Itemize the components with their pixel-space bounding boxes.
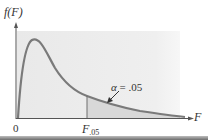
chart-canvas [0,0,208,140]
y-axis-arrow-icon [14,22,18,28]
origin-tick-label: 0 [13,123,19,134]
x-axis-label: F [194,111,201,123]
bottom-border-bar [0,136,208,140]
critical-value-label: F.05 [82,123,99,137]
f-distribution-figure: f(F) F 0 F.05 α = .05 [0,0,208,140]
alpha-value: = .05 [117,81,142,93]
y-axis-label: f(F) [4,6,23,18]
alpha-annotation: α = .05 [111,82,142,93]
